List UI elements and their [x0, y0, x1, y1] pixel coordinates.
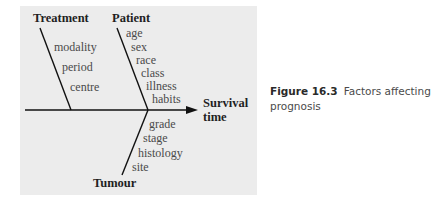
cause-label: habits: [152, 92, 181, 106]
cause-label: stage: [143, 131, 168, 145]
cause-label: sex: [131, 40, 147, 54]
cause-label: period: [62, 60, 93, 74]
figure-number: Figure 16.3: [270, 85, 338, 97]
arrow-head-icon: [186, 106, 198, 114]
cause-label: illness: [146, 79, 177, 93]
cause-label: centre: [70, 80, 99, 94]
cause-label: class: [141, 66, 165, 80]
effect-label-line2: time: [203, 110, 227, 124]
cause-label: race: [136, 53, 156, 67]
effect-label-line1: Survival: [203, 96, 249, 110]
cause-label: grade: [149, 117, 176, 131]
category-tumour: Tumour: [93, 176, 137, 190]
category-patient: Patient: [112, 11, 151, 25]
cause-label: age: [126, 26, 143, 40]
figure-caption: Figure 16.3Factors affecting prognosis: [270, 84, 440, 114]
cause-label: site: [132, 160, 149, 174]
cause-label: modality: [54, 40, 97, 54]
cause-label: histology: [138, 146, 183, 160]
category-treatment: Treatment: [33, 11, 90, 25]
